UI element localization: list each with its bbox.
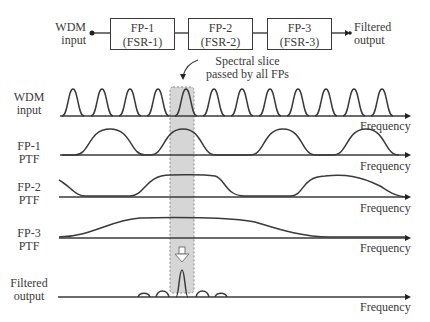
- fp3-block-fsr: (FSR-3): [268, 35, 331, 49]
- annotation-line2: passed by all FPs: [195, 68, 300, 81]
- fp1-block-fsr: (FSR-1): [111, 35, 174, 49]
- axis-label-frequency: Frequency: [360, 119, 411, 134]
- fp2-block-fsr: (FSR-2): [189, 35, 252, 49]
- fp3-block: FP-3 (FSR-3): [267, 18, 332, 50]
- fp2-block-name: FP-2: [189, 21, 252, 35]
- row-label-line2: PTF: [6, 153, 52, 166]
- row-label-filtered-output: Filtered output: [4, 277, 54, 303]
- row-label-line2: output: [4, 290, 54, 303]
- row-label-fp1-ptf: FP-1 PTF: [6, 140, 52, 166]
- axis-label-frequency: Frequency: [360, 201, 411, 216]
- row-label-wdm-input: WDM input: [6, 91, 52, 117]
- axis-label-frequency: Frequency: [360, 241, 411, 256]
- input-dot-icon: [90, 31, 95, 36]
- block-input-label-line2: input: [40, 34, 86, 47]
- block-output-label-line2: output: [354, 34, 404, 47]
- axis-label-frequency: Frequency: [360, 159, 411, 174]
- fp1-ptf-trace: [60, 129, 405, 155]
- block-input-label: WDM input: [40, 21, 86, 47]
- fp2-ptf-trace: [59, 175, 405, 197]
- wdm-input-trace: [60, 89, 405, 116]
- fp3-ptf-trace: [59, 217, 405, 238]
- fp1-block-name: FP-1: [111, 21, 174, 35]
- spectral-slice-annotation: Spectral slice passed by all FPs: [195, 55, 300, 81]
- row-label-fp2-ptf: FP-2 PTF: [6, 181, 52, 207]
- fp2-block: FP-2 (FSR-2): [188, 18, 253, 50]
- fp1-block: FP-1 (FSR-1): [110, 18, 175, 50]
- row-label-line2: PTF: [6, 194, 52, 207]
- row-label-fp3-ptf: FP-3 PTF: [6, 227, 52, 253]
- filtered-output-trace: [58, 270, 405, 297]
- fp3-block-name: FP-3: [268, 21, 331, 35]
- axis-label-frequency: Frequency: [360, 300, 411, 315]
- row-label-line2: PTF: [6, 240, 52, 253]
- row-label-line2: input: [6, 104, 52, 117]
- block-output-label: Filtered output: [354, 21, 404, 47]
